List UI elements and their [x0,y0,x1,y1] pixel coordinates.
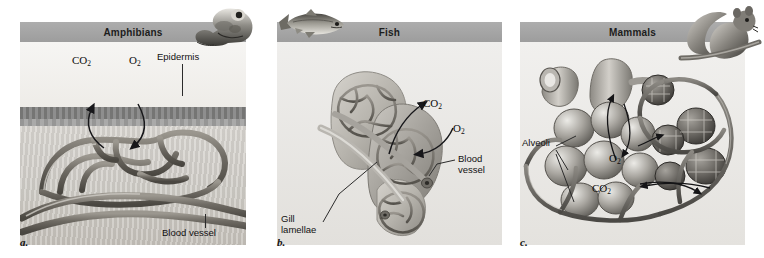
panel-b-header: Fish [277,22,502,42]
panel-amphibians: Amphibians [20,0,246,258]
panel-a-stage: CO2 O2 Epidermis Blood vessel [20,42,246,245]
panel-a-title: Amphibians [103,27,162,38]
respiration-figure: Amphibians [0,0,764,258]
fish-icon [275,6,347,40]
panel-c-header: Mammals [520,22,745,42]
frog-icon [188,2,262,48]
panel-c-o2-label: O2 [609,152,621,164]
panel-b-o2-label: O2 [453,122,465,134]
mammal-alveoli-art [520,42,745,245]
panel-fish: Fish [277,0,502,258]
panel-c-stage: Alveoli O2 CO2 [520,42,745,245]
panel-b-gill-lamellae-label: Gill lamellae [281,214,323,236]
amphibian-capillary-art [20,42,246,245]
blood-vessel-leader-a [205,214,206,228]
panel-b-stage: CO2 O2 Blood vessel Gill lamellae [277,42,502,245]
panel-b-blood-vessel-label: Blood vessel [458,154,500,176]
panel-mammals: Mammals [520,0,745,258]
panel-c-title: Mammals [609,27,656,38]
panel-b-title: Fish [379,27,400,38]
panel-a-epidermis-label: Epidermis [157,52,199,63]
panel-c-alveoli-label: Alveoli [522,138,550,149]
panel-a-header: Amphibians [20,22,246,42]
panel-b-co2-label: CO2 [423,97,442,109]
panel-a-blood-vessel-label: Blood vessel [162,228,216,239]
panel-a-o2-label: O2 [129,54,141,66]
epidermis-leader [182,64,183,96]
chipmunk-icon [681,0,759,62]
panel-a-co2-label: CO2 [72,54,91,66]
panel-c-co2-label: CO2 [592,182,611,194]
